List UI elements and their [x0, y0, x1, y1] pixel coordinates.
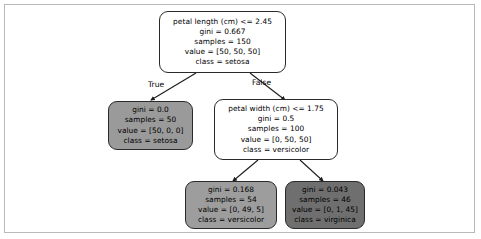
node-petal-width-condition: petal width (cm) <= 1.75 — [228, 104, 324, 114]
node-root-gini: gini = 0.667 — [199, 27, 245, 37]
leaf-setosa-gini: gini = 0.0 — [132, 105, 169, 115]
node-root-value: value = [50, 50, 50] — [185, 47, 260, 57]
node-leaf-versicolor[interactable]: gini = 0.168 samples = 54 value = [0, 49… — [185, 181, 277, 229]
node-root-class: class = setosa — [195, 57, 249, 67]
leaf-setosa-samples: samples = 50 — [125, 115, 177, 125]
leaf-virginica-gini: gini = 0.043 — [302, 185, 348, 195]
node-leaf-virginica[interactable]: gini = 0.043 samples = 46 value = [0, 1,… — [285, 181, 365, 229]
node-root-samples: samples = 150 — [194, 37, 250, 47]
leaf-versicolor-class: class = versicolor — [198, 215, 264, 225]
edge-label-true: True — [148, 80, 164, 89]
leaf-setosa-class: class = setosa — [123, 136, 177, 146]
leaf-versicolor-gini: gini = 0.168 — [208, 185, 254, 195]
decision-tree-diagram: petal length (cm) <= 2.45 gini = 0.667 s… — [0, 0, 481, 239]
node-petal-width-gini: gini = 0.5 — [258, 114, 295, 124]
node-petal-width-samples: samples = 100 — [248, 124, 304, 134]
leaf-setosa-value: value = [50, 0, 0] — [118, 126, 184, 136]
node-split-petal-width[interactable]: petal width (cm) <= 1.75 gini = 0.5 samp… — [214, 99, 338, 160]
edge-label-false: False — [252, 78, 271, 87]
node-root[interactable]: petal length (cm) <= 2.45 gini = 0.667 s… — [159, 11, 286, 73]
leaf-virginica-samples: samples = 46 — [299, 195, 351, 205]
node-petal-width-class: class = versicolor — [243, 145, 309, 155]
node-leaf-setosa[interactable]: gini = 0.0 samples = 50 value = [50, 0, … — [108, 101, 193, 150]
leaf-versicolor-value: value = [0, 49, 5] — [198, 205, 264, 215]
node-root-condition: petal length (cm) <= 2.45 — [173, 17, 272, 27]
leaf-virginica-value: value = [0, 1, 45] — [292, 205, 358, 215]
leaf-virginica-class: class = virginica — [294, 215, 356, 225]
node-petal-width-value: value = [0, 50, 50] — [241, 135, 312, 145]
leaf-versicolor-samples: samples = 54 — [205, 195, 257, 205]
